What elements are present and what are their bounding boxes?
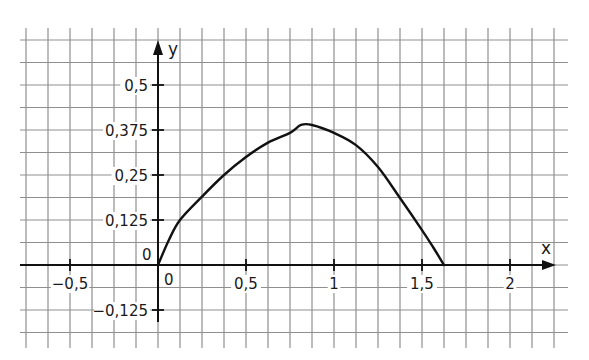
y-tick-label: 0,25 [115,167,148,185]
x-tick-label: −0,5 [52,275,88,293]
grid [20,28,568,348]
y-axis-label: y [168,39,178,59]
function-graph: −0,50,511,520,50,3750,250,125−0,12500 x … [0,0,589,360]
x-tick-label: 0,5 [234,275,258,293]
function-curve [158,124,444,265]
y-tick-label: 0,125 [105,212,148,230]
tick-labels: −0,50,511,520,50,3750,250,125−0,12500 [51,77,517,320]
x-tick-label: 1,5 [410,275,434,293]
axes [20,40,556,322]
x-tick-label: 2 [505,275,515,293]
x-axis-label: x [541,238,551,258]
y-tick-label: 0,5 [124,77,148,95]
x-origin-label: 0 [164,271,174,289]
y-axis-arrow-icon [153,40,163,55]
y-tick-label: 0,375 [105,122,148,140]
y-tick-label: −0,125 [92,302,148,320]
y-origin-label: 0 [142,246,152,264]
x-tick-label: 1 [329,275,339,293]
